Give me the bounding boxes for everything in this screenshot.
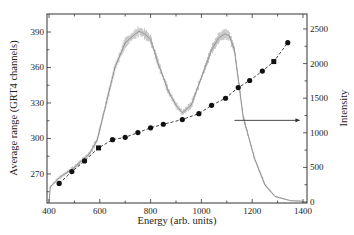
- y-tick-label: 390: [31, 27, 45, 37]
- y-tick-label: 300: [31, 133, 45, 143]
- range-marker: [247, 78, 252, 83]
- intensity-series: [49, 26, 303, 202]
- y-axis-left-title: Average range (GRT4 channels): [8, 40, 20, 176]
- y-axis-right-title: Intensity: [338, 89, 349, 126]
- x-axis-title: Energy (arb. units): [138, 215, 217, 227]
- intensity-line: [49, 31, 303, 202]
- range-marker: [148, 125, 153, 130]
- y-axis-left: 270300330360390: [31, 27, 52, 192]
- range-marker: [135, 130, 140, 135]
- x-tick-label: 1200: [243, 206, 262, 216]
- range-marker: [123, 135, 128, 140]
- range-marker: [236, 85, 241, 90]
- chart: 400600800100012001400 270300330360390 05…: [0, 0, 354, 235]
- range-marker: [223, 96, 228, 101]
- range-marker: [161, 122, 166, 127]
- range-marker: [82, 158, 87, 163]
- x-axis: 400600800100012001400: [42, 14, 312, 216]
- range-marker: [69, 169, 74, 174]
- x-tick-label: 1400: [294, 206, 313, 216]
- y2-tick-label: 1500: [310, 93, 329, 103]
- y2-tick-label: 1000: [310, 128, 329, 138]
- range-marker: [57, 181, 62, 186]
- y2-tick-label: 500: [310, 162, 324, 172]
- range-marker: [180, 117, 185, 122]
- y2-tick-label: 2500: [310, 24, 329, 34]
- y2-tick-label: 2000: [310, 59, 329, 69]
- range-marker: [209, 103, 214, 108]
- range-marker: [260, 68, 265, 73]
- y-tick-label: 270: [31, 169, 45, 179]
- range-marker: [285, 40, 290, 45]
- range-marker: [110, 137, 115, 142]
- range-marker: [196, 111, 201, 116]
- range-marker-square: [271, 59, 276, 64]
- range-line: [59, 43, 288, 184]
- range-marker-square: [96, 145, 101, 150]
- y-tick-label: 330: [31, 98, 45, 108]
- x-tick-label: 400: [42, 206, 56, 216]
- arrow-head-icon: [295, 118, 300, 122]
- y2-tick-label: 0: [310, 197, 315, 207]
- x-tick-label: 600: [93, 206, 107, 216]
- range-series: [57, 40, 291, 186]
- y-tick-label: 360: [31, 62, 45, 72]
